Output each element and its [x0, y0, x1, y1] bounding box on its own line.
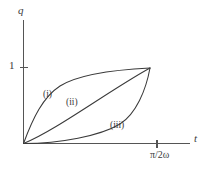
plot-area — [0, 0, 207, 174]
x-tick-label-pi-2omega: π/2ω — [150, 150, 169, 160]
figure-canvas: q t 1 π/2ω (i) (ii) (iii) — [0, 0, 207, 174]
curve-label-i: (i) — [43, 90, 52, 100]
curve-label-ii: (ii) — [66, 98, 78, 108]
y-axis-label: q — [18, 5, 24, 16]
curve-label-iii: (iii) — [110, 121, 124, 131]
y-tick-label-1: 1 — [9, 60, 15, 71]
curve-ii — [24, 68, 151, 144]
x-axis-label: t — [194, 133, 197, 144]
